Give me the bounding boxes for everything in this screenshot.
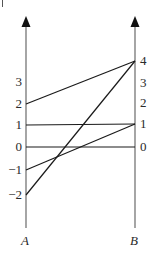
axis-b-tick-label: 3 [140, 76, 147, 89]
arrowhead-a-icon [22, 16, 31, 27]
axis-a-tick-label: −2 [2, 188, 22, 201]
axis-a [22, 16, 31, 228]
axis-b-tick-label: 2 [140, 96, 147, 109]
axis-b [131, 16, 140, 228]
axis-a-label: A [21, 234, 29, 247]
axis-b-tick-label: 4 [140, 54, 147, 67]
axis-b-tick-label: 0 [140, 140, 147, 153]
axis-a-tick-label: −1 [2, 163, 22, 176]
axis-b-label: B [130, 234, 138, 247]
mapping-diagram: 3210−1−2 43210 A B [0, 0, 154, 256]
mapping-line [26, 124, 135, 125]
axis-a-tick-label: 1 [2, 118, 22, 131]
mapping-line [26, 61, 135, 104]
axis-a-tick-label: 3 [2, 75, 22, 88]
diagram-canvas [0, 0, 154, 256]
mapping-lines [26, 61, 135, 195]
arrowhead-b-icon [131, 16, 140, 27]
axis-a-tick-label: 0 [2, 140, 22, 153]
mapping-line [26, 61, 135, 195]
axis-a-tick-label: 2 [2, 97, 22, 110]
axis-b-tick-label: 1 [140, 117, 147, 130]
